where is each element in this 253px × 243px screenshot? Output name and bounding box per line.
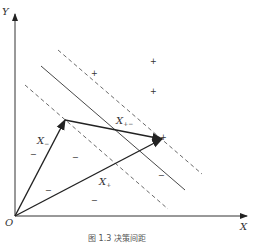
- x-axis-label: X: [239, 221, 248, 232]
- margin-diagram: Y X O X− X+ X+− + + + + − − − − − 图 1.3 …: [0, 0, 253, 243]
- figure-caption: 图 1.3 决策间距: [88, 233, 146, 243]
- negative-point: −: [30, 150, 37, 159]
- vector-x-plus: [15, 139, 162, 216]
- origin-label: O: [5, 217, 13, 228]
- negative-point: −: [158, 171, 165, 180]
- negative-point: −: [91, 196, 98, 205]
- vector-x-plus-minus: [65, 120, 162, 139]
- positive-point: +: [150, 87, 157, 96]
- label-x-minus: X−: [36, 135, 49, 147]
- negative-point: −: [72, 153, 79, 162]
- positive-point: +: [150, 57, 157, 66]
- label-x-plus: X+: [98, 176, 111, 188]
- y-axis-label: Y: [2, 6, 10, 17]
- label-x-plus-minus: X+−: [115, 115, 133, 127]
- negative-point: −: [45, 186, 52, 195]
- positive-point: +: [91, 69, 98, 78]
- positive-point: +: [160, 133, 167, 142]
